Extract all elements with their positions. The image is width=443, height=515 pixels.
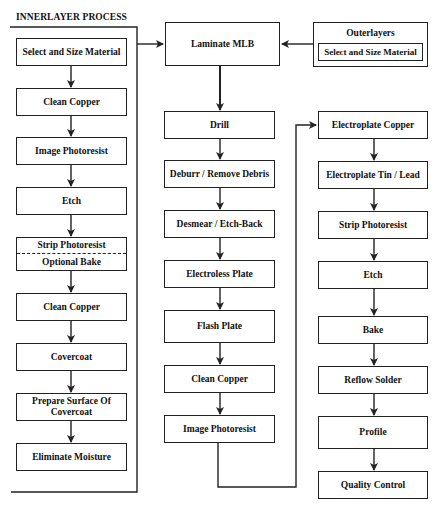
step-flash-plate: Flash Plate [164, 310, 275, 343]
step-strip-photoresist-right: Strip Photoresist [318, 211, 428, 239]
step-label: Image Photoresist [35, 146, 108, 157]
step-image-photoresist-mid: Image Photoresist [164, 415, 275, 443]
step-deburr: Deburr / Remove Debris [164, 160, 275, 188]
step-etch-right: Etch [318, 261, 428, 289]
step-label: Clean Copper [191, 374, 248, 385]
step-clean-copper-mid: Clean Copper [164, 365, 275, 393]
step-electroplate-tin-lead: Electroplate Tin / Lead [318, 161, 428, 189]
step-label: Prepare Surface Of Covercoat [29, 396, 114, 418]
step-label: Deburr / Remove Debris [170, 169, 269, 180]
step-eliminate-moisture: Eliminate Moisture [16, 443, 127, 471]
step-label: Electroplate Tin / Lead [326, 170, 420, 181]
step-desmear: Desmear / Etch-Back [164, 210, 275, 238]
step-profile: Profile [318, 416, 428, 449]
step-label: Strip Photoresist [339, 220, 407, 231]
step-prepare-surface: Prepare Surface Of Covercoat [16, 393, 127, 421]
step-label: Quality Control [341, 480, 405, 491]
step-label: Eliminate Moisture [32, 452, 111, 463]
step-label: Flash Plate [197, 321, 242, 332]
step-clean-copper-2: Clean Copper [16, 293, 127, 321]
step-electroplate-copper: Electroplate Copper [318, 111, 428, 139]
dashed-divider [17, 253, 126, 254]
step-select-size-material: Select and Size Material [16, 38, 127, 66]
step-label: Electroplate Copper [332, 120, 414, 131]
step-label: Etch [62, 196, 81, 207]
step-label: Select and Size Material [324, 47, 417, 58]
step-image-photoresist: Image Photoresist [16, 137, 127, 165]
step-drill: Drill [164, 111, 275, 139]
step-bake: Bake [318, 316, 428, 344]
step-reflow-solder: Reflow Solder [318, 366, 428, 394]
step-label: Bake [363, 325, 384, 336]
step-strip-photoresist-optional-bake: Strip Photoresist Optional Bake [16, 237, 127, 271]
step-label: Select and Size Material [23, 47, 121, 58]
step-label: Drill [210, 120, 229, 131]
step-laminate-mlb: Laminate MLB [165, 22, 280, 66]
step-etch: Etch [16, 187, 127, 215]
step-label: Etch [364, 270, 383, 281]
outerlayers-select-size-material: Select and Size Material [318, 43, 423, 61]
step-label: Laminate MLB [191, 39, 254, 50]
outerlayers-title: Outerlayers [346, 28, 395, 39]
outerlayers-box: Outerlayers Select and Size Material [313, 22, 428, 67]
step-clean-copper: Clean Copper [16, 88, 127, 116]
step-label: Covercoat [51, 352, 93, 363]
step-label: Clean Copper [43, 97, 100, 108]
step-label: Strip Photoresist [37, 240, 105, 251]
step-covercoat: Covercoat [16, 343, 127, 371]
step-label: Image Photoresist [183, 424, 256, 435]
step-label: Desmear / Etch-Back [177, 219, 263, 230]
step-electroless-plate: Electroless Plate [164, 260, 275, 288]
step-quality-control: Quality Control [318, 471, 428, 499]
step-label: Profile [359, 427, 386, 438]
step-label: Clean Copper [43, 302, 100, 313]
optional-step-label: Optional Bake [42, 257, 101, 268]
step-label: Reflow Solder [344, 375, 401, 386]
step-label: Electroless Plate [186, 269, 253, 280]
